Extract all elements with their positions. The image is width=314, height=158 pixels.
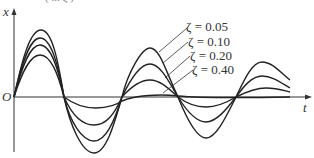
leader-line-005 bbox=[159, 28, 187, 52]
x-axis-label: x bbox=[3, 4, 9, 20]
damped-oscillation-plot bbox=[0, 0, 314, 158]
curve-zeta-020 bbox=[14, 45, 290, 125]
legend-zeta-005: ζ = 0.05 bbox=[186, 19, 228, 35]
t-axis-arrow-icon bbox=[305, 95, 312, 100]
title-fragment: ( ... ξ ) bbox=[45, 0, 74, 3]
legend-zeta-040: ζ = 0.40 bbox=[192, 62, 234, 78]
origin-label: O bbox=[2, 89, 11, 105]
x-axis-arrow-icon bbox=[12, 8, 17, 15]
t-axis-label: t bbox=[303, 100, 307, 116]
